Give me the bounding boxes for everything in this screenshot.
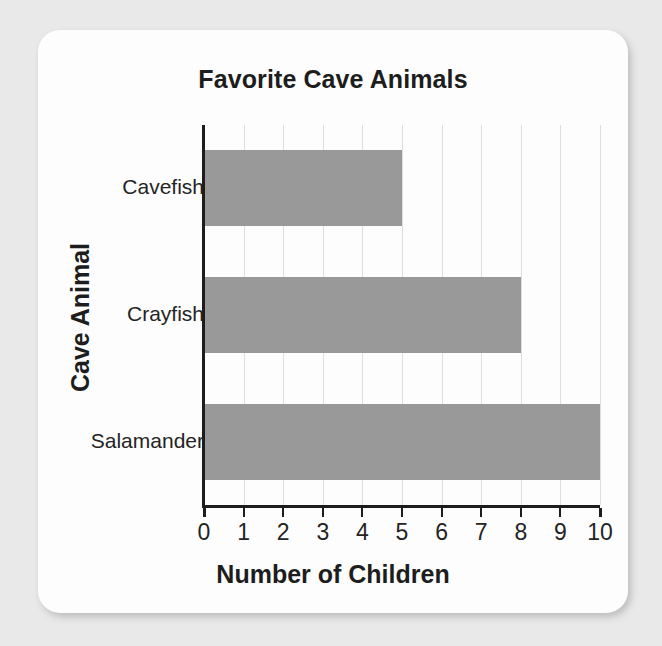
x-axis-tick-label: 8 [501, 519, 541, 546]
bar[interactable] [204, 404, 600, 480]
x-axis-tick [480, 508, 482, 517]
x-axis-tick-label: 6 [422, 519, 462, 546]
category-label-wrapper: Cavefish [59, 175, 214, 199]
gridline [600, 125, 601, 505]
x-axis-tick-label: 5 [382, 519, 422, 546]
x-axis-tick [203, 508, 206, 517]
y-axis-line [202, 125, 205, 507]
x-axis-title: Number of Children [38, 560, 628, 589]
x-axis-tick-label: 3 [303, 519, 343, 546]
x-axis-tick-label: 4 [342, 519, 382, 546]
x-axis-tick [282, 508, 284, 517]
x-axis-tick [322, 508, 324, 517]
bar-chart: Favorite Cave Animals Cave Animal Cavefi… [38, 30, 628, 613]
x-axis-tick-label: 9 [540, 519, 580, 546]
chart-title: Favorite Cave Animals [38, 65, 628, 94]
x-axis-tick-label: 2 [263, 519, 303, 546]
bar[interactable] [204, 277, 521, 353]
screenshot-root: Favorite Cave Animals Cave Animal Cavefi… [0, 0, 662, 646]
x-axis-tick [243, 508, 245, 517]
x-axis-tick [401, 508, 403, 517]
x-axis-tick-label: 1 [224, 519, 264, 546]
category-label-wrapper: Salamander [59, 429, 214, 453]
x-axis-tick [559, 508, 561, 517]
x-axis-tick [361, 508, 363, 517]
x-axis-tick [441, 508, 443, 517]
x-axis-tick-label: 7 [461, 519, 501, 546]
bar[interactable] [204, 150, 402, 226]
x-axis-tick-label: 10 [580, 519, 620, 546]
plot-area: CavefishCrayfishSalamander [204, 125, 600, 505]
category-label-wrapper: Crayfish [59, 302, 214, 326]
x-axis-tick [520, 508, 522, 517]
x-axis-tick [599, 508, 602, 517]
chart-card: Favorite Cave Animals Cave Animal Cavefi… [38, 30, 628, 613]
y-axis-category-label: Cavefish [59, 175, 204, 199]
y-axis-category-label: Crayfish [59, 302, 204, 326]
y-axis-category-label: Salamander [59, 429, 204, 453]
x-axis-tick-label: 0 [184, 519, 224, 546]
